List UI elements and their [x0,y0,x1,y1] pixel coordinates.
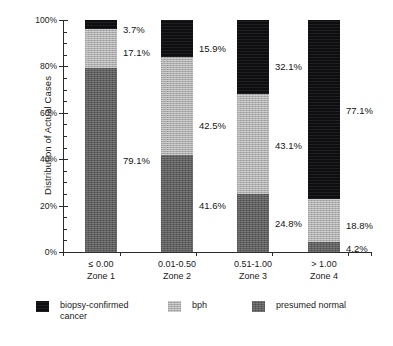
legend-item-cancer[interactable]: biopsy-confirmed cancer [36,300,129,321]
plot-area: 100% 80% 60% 40% 20% 0% [63,20,372,253]
x-axis-line [63,252,372,253]
y-minor-tick [63,148,67,149]
x-category-range: ≤ 0.00 [89,259,114,269]
value-label-zone3-normal: 24.8% [275,218,302,229]
bar-segment-cancer[interactable] [308,20,340,199]
y-axis-title: Distribution of Actual Cases [42,26,53,246]
value-label-zone3-cancer: 32.1% [275,61,302,72]
bar-segment-bph[interactable] [161,57,193,156]
bar-zone-1[interactable] [85,20,117,252]
x-tick [63,252,64,256]
x-category-zone-4: > 1.00 Zone 4 [279,258,369,282]
y-minor-tick [63,182,67,183]
y-minor-tick [63,136,67,137]
y-minor-tick [63,78,67,79]
bar-segment-cancer[interactable] [85,20,117,29]
bar-segment-bph[interactable] [85,29,117,69]
bar-segment-bph[interactable] [308,199,340,243]
bar-segment-cancer[interactable] [237,20,269,94]
chart-figure: Distribution of Actual Cases 100% 80% 60… [0,0,393,346]
y-minor-tick [63,194,67,195]
y-tick-label: 100% [35,15,57,25]
legend-label-normal: presumed normal [276,300,346,311]
bar-segment-bph[interactable] [237,94,269,194]
value-label-zone1-bph: 17.1% [123,47,150,58]
y-minor-tick [63,32,67,33]
bar-segment-normal[interactable] [85,68,117,252]
value-label-zone3-bph: 43.1% [275,139,302,150]
legend-swatch-cancer-icon [36,301,49,312]
legend-label-bph: bph [192,300,207,311]
x-tick [196,252,197,256]
y-tick-label: 80% [40,61,57,71]
y-minor-tick [63,101,67,102]
legend-swatch-normal-icon [252,301,265,312]
value-label-zone4-cancer: 77.1% [346,104,373,115]
x-tick [120,252,121,256]
chart-legend: biopsy-confirmed cancer bph presumed nor… [0,300,393,340]
legend-swatch-bph-icon [168,301,181,312]
bar-segment-normal[interactable] [308,242,340,252]
bar-segment-normal[interactable] [161,155,193,252]
y-minor-tick [63,124,67,125]
bar-zone-2[interactable] [161,20,193,252]
legend-item-bph[interactable]: bph [168,300,207,312]
y-minor-tick [63,240,67,241]
value-label-zone2-bph: 42.5% [199,120,226,131]
x-tick [371,252,372,256]
bar-zone-3[interactable] [237,20,269,252]
y-tick-label: 40% [40,154,57,164]
bar-zone-4[interactable] [308,20,340,252]
value-label-zone1-cancer: 3.7% [123,23,145,34]
value-label-zone4-normal: 4.2% [346,243,368,254]
x-category-range: 0.01-0.50 [158,259,196,269]
x-tick [272,252,273,256]
y-minor-tick [63,171,67,172]
legend-label-cancer: biopsy-confirmed cancer [60,300,129,321]
y-tick-label: 60% [40,108,57,118]
y-minor-tick [63,55,67,56]
y-minor-tick [63,217,67,218]
value-label-zone4-bph: 18.8% [346,219,373,230]
value-label-zone1-normal: 79.1% [123,155,150,166]
value-label-zone2-cancer: 15.9% [199,42,226,53]
value-label-zone2-normal: 41.6% [199,199,226,210]
x-category-range: 0.51-1.00 [234,259,272,269]
x-category-range: > 1.00 [311,259,336,269]
bar-segment-normal[interactable] [237,194,269,252]
bar-segment-cancer[interactable] [161,20,193,57]
y-minor-tick [63,90,67,91]
legend-item-normal[interactable]: presumed normal [252,300,346,312]
y-tick-label: 20% [40,201,57,211]
y-minor-tick [63,229,67,230]
y-minor-tick [63,43,67,44]
x-category-zone: Zone 4 [279,270,369,282]
y-tick-label: 0% [45,247,57,257]
